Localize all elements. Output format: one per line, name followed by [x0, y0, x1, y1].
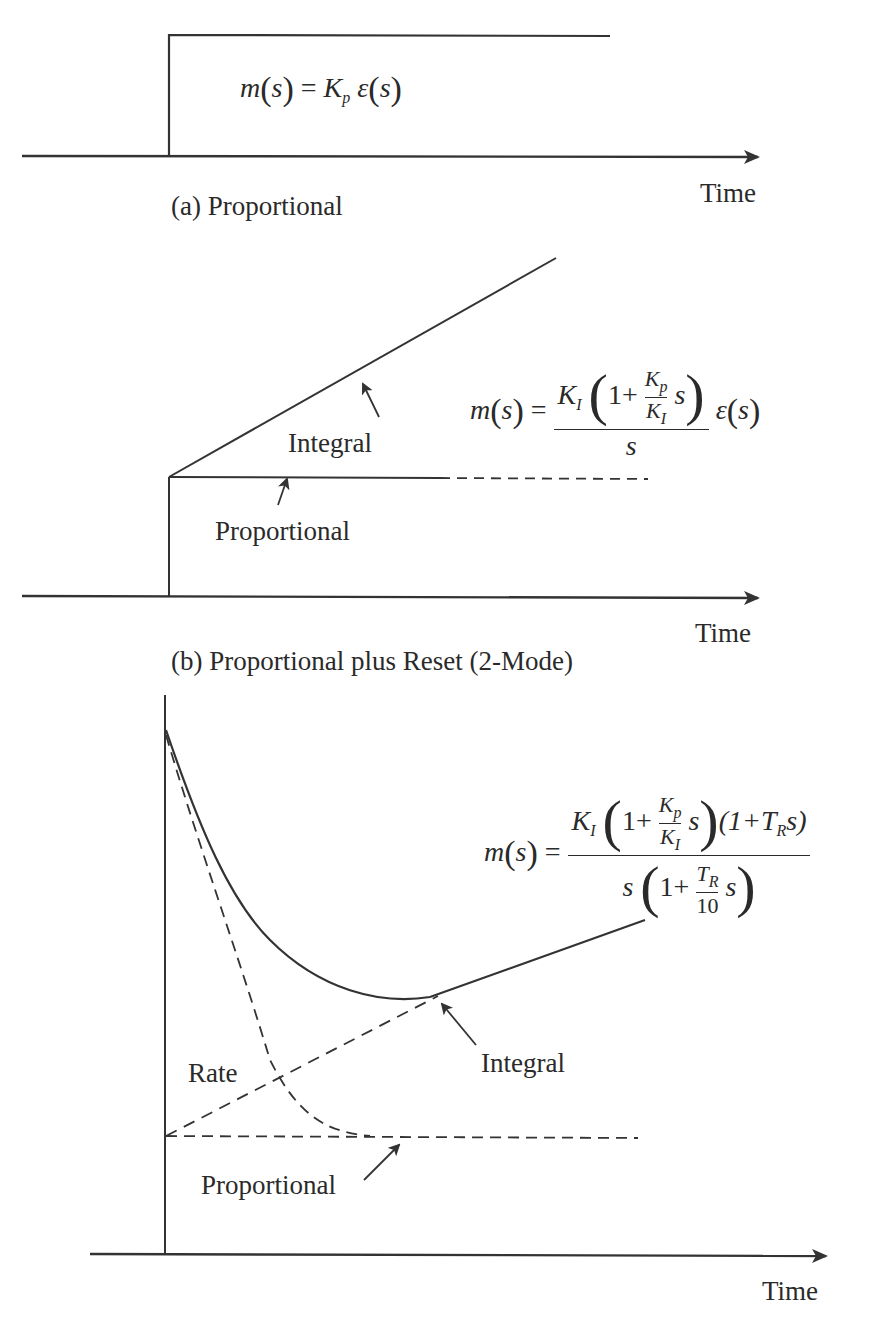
equation-proportional: m(s) = Kp ε(s): [240, 72, 402, 106]
equation-pid: m(s) = KI (1+ KpKI s)(1+TRs) s (1+ TR10 …: [484, 792, 810, 917]
integral-label-c: Integral: [481, 1050, 565, 1077]
time-label-a: Time: [700, 180, 756, 207]
time-label-b: Time: [695, 620, 751, 647]
time-axis-a: [22, 156, 758, 157]
rate-label-c: Rate: [188, 1060, 237, 1087]
time-axis-c: [90, 1254, 826, 1256]
time-label-c: Time: [762, 1278, 818, 1305]
proportional-label-b: Proportional: [215, 518, 350, 545]
proportional-pointer-c: [364, 1145, 399, 1180]
proportional-dashed-line-c: [166, 1136, 638, 1138]
integral-label-b: Integral: [288, 430, 372, 457]
time-axis-b: [22, 596, 758, 598]
proportional-line-b: [169, 477, 440, 478]
pi-fraction: KI (1+ KpKI s) s: [554, 366, 709, 460]
proportional-dashed-b: [440, 478, 648, 479]
integral-pointer-c: [442, 1004, 476, 1045]
proportional-label-c: Proportional: [201, 1172, 336, 1199]
caption-b: (b) Proportional plus Reset (2-Mode): [171, 648, 573, 675]
equation-pi: m(s) = KI (1+ KpKI s) s ε(s): [470, 366, 760, 460]
pid-fraction: KI (1+ KpKI s)(1+TRs) s (1+ TR10 s): [568, 792, 811, 917]
integral-pointer-b: [363, 384, 379, 417]
caption-a: (a) Proportional: [171, 193, 343, 220]
proportional-pointer-b: [278, 479, 287, 505]
